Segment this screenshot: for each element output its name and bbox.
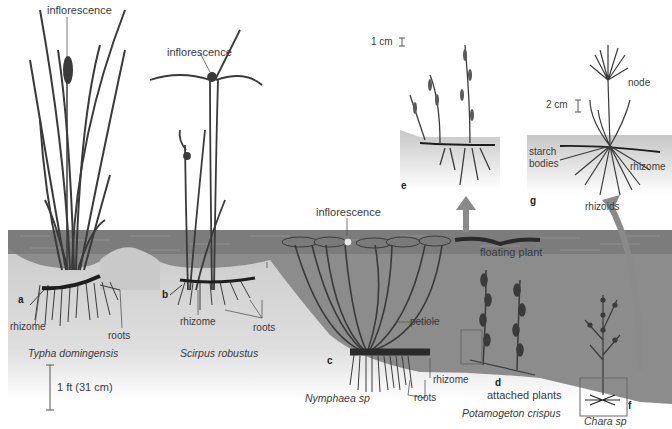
- chara-species-label: Chara sp: [584, 415, 627, 427]
- typha-species-label: Typha domingensis: [28, 347, 118, 359]
- typha-inflorescence-label: inflorescence: [47, 4, 112, 16]
- nymphaea-roots-label: roots: [414, 392, 436, 404]
- inset-g-scale-label: 2 cm: [546, 99, 568, 111]
- typha-roots-label: roots: [108, 330, 130, 342]
- panel-letter-g: g: [530, 195, 536, 207]
- nymphaea-species-label: Nymphaea sp: [305, 392, 370, 404]
- panel-letter-d: d: [495, 377, 501, 389]
- aquatic-plants-diagram: inflorescence a rhizome roots Typha domi…: [0, 0, 672, 429]
- nymphaea-inflorescence-label: inflorescence: [316, 206, 381, 218]
- typha-rhizome-label: rhizome: [10, 321, 46, 333]
- panel-letter-e: e: [401, 180, 407, 192]
- panel-letter-c: c: [327, 355, 333, 367]
- attached-plants-label: attached plants: [487, 389, 562, 401]
- scirpus-roots-label: roots: [253, 322, 275, 334]
- panel-letter-b: b: [162, 289, 168, 301]
- scirpus-species-label: Scirpus robustus: [180, 347, 258, 359]
- nymphaea-petiole-label: petiole: [410, 316, 439, 328]
- arrow-to-inset-e: [456, 196, 476, 232]
- inset-g-starch-label: starch: [529, 146, 556, 158]
- panel-letter-a: a: [18, 294, 24, 306]
- inset-g-node-label: node: [628, 77, 650, 89]
- potamogeton-species-label: Potamogeton crispus: [462, 407, 561, 419]
- scale-bar-label: 1 ft (31 cm): [57, 381, 113, 393]
- floating-plant-label: floating plant: [480, 246, 542, 258]
- panel-letter-f: f: [628, 400, 631, 412]
- inset-e-scale-label: 1 cm: [371, 36, 393, 48]
- inset-g-rhizome-label: rhizome: [630, 161, 666, 173]
- inset-e: [399, 38, 500, 190]
- nymphaea-rhizome-label: rhizome: [433, 374, 469, 386]
- inset-g-bodies-label: bodies: [529, 158, 558, 170]
- inset-g-rhizoids-label: rhizoids: [585, 201, 619, 213]
- scirpus-rhizome-label: rhizome: [180, 316, 216, 328]
- scirpus-inflorescence-label: inflorescence: [167, 46, 232, 58]
